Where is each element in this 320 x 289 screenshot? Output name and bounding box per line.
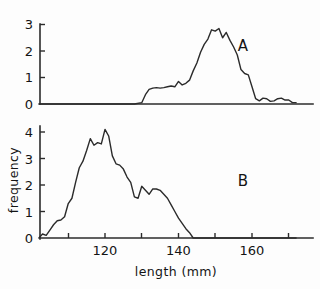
panel-b-data-curve (39, 129, 296, 238)
xtick-label-120: 120 (93, 243, 118, 258)
panel-a-data-curve (39, 28, 296, 104)
panel-b-ytick-label-3: 3 (25, 152, 33, 167)
panel-a-ytick-label-2: 2 (25, 44, 33, 59)
panel-b-ytick-label-2: 2 (25, 178, 33, 193)
x-axis-title: length (mm) (135, 264, 217, 279)
panel-a: 3 2 1 0 A (25, 17, 313, 112)
panel-a-y-axis: 3 2 1 0 (25, 17, 45, 112)
panel-a-ytick-label-3: 3 (25, 17, 33, 32)
panel-b: 4 3 2 1 0 120 140 160 B (25, 125, 313, 258)
panel-b-y-axis: 4 3 2 1 0 (25, 125, 45, 246)
xtick-label-160: 160 (240, 243, 265, 258)
panel-b-ytick-label-1: 1 (25, 205, 33, 220)
xtick-label-140: 140 (166, 243, 191, 258)
figure-container: 3 2 1 0 A 4 3 2 1 (0, 0, 320, 289)
panel-b-label: B (238, 172, 248, 190)
panel-b-ytick-label-4: 4 (25, 125, 33, 140)
y-axis-title: frequency (6, 147, 21, 213)
panel-a-label: A (238, 37, 249, 55)
panel-a-ytick-label-0: 0 (25, 97, 33, 112)
chart-svg: 3 2 1 0 A 4 3 2 1 (0, 0, 320, 289)
panel-b-ytick-label-0: 0 (25, 231, 33, 246)
panel-a-ytick-label-1: 1 (25, 70, 33, 85)
